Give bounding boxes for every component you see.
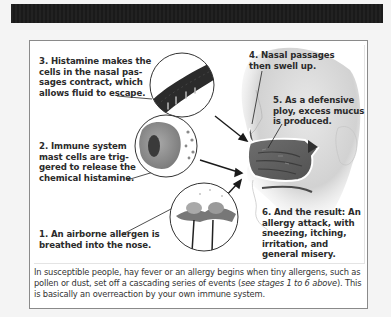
step-4-line: 4. Nasal passages <box>249 50 334 61</box>
step-6-line: 6. And the result: An <box>262 207 361 218</box>
step-2-line: mast cells are trig- <box>39 152 136 163</box>
step-3-line: allows fluid to escape. <box>39 88 151 99</box>
step-2-line: 2. Immune system <box>39 141 136 152</box>
step-6-label: 6. And the result: An allergy attack, wi… <box>262 207 361 260</box>
step-1-line: 1. An airborne allergen is <box>39 229 160 240</box>
figure-caption: In susceptible people, hay fever or an a… <box>34 267 366 301</box>
step-3-label: 3. Histamine makes the cells in the nasa… <box>39 56 151 98</box>
step-6-line: irritation, and <box>262 239 361 250</box>
step-3-line: cells in the nasal pas- <box>39 67 151 78</box>
step-4-line: then swell up. <box>249 61 334 72</box>
step-2-line: gered to release the <box>39 162 136 173</box>
step-1-label: 1. An airborne allergen is breathed into… <box>39 229 160 250</box>
step-5-line: ploy, excess mucus <box>273 106 364 117</box>
step-5-line: is produced. <box>273 116 364 127</box>
caption-italic-reference: see stages 1 to 6 above <box>241 278 337 288</box>
step-5-line: 5. As a defensive <box>273 95 364 106</box>
step-3-line: 3. Histamine makes the <box>39 56 151 67</box>
step-6-line: sneezing, itching, <box>262 228 361 239</box>
step-3-line: sages contract, which <box>39 77 151 88</box>
step-2-line: chemical histamine. <box>39 173 136 184</box>
step-1-line: breathed into the nose. <box>39 240 160 251</box>
step-6-line: allergy attack, with <box>262 218 361 229</box>
step-5-label: 5. As a defensive ploy, excess mucus is … <box>273 95 364 127</box>
step-2-label: 2. Immune system mast cells are trig- ge… <box>39 141 136 183</box>
step-6-line: general misery. <box>262 249 361 260</box>
step-4-label: 4. Nasal passages then swell up. <box>249 50 334 71</box>
mast-cell-closeup <box>135 115 197 177</box>
nasal-cell-closeup <box>145 53 230 122</box>
flower-closeup <box>170 183 238 252</box>
